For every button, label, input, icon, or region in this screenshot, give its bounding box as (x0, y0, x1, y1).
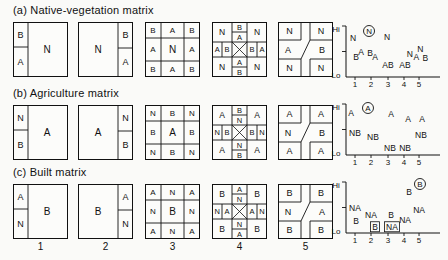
chart-label-letter: B (417, 180, 422, 189)
cell-label: B (44, 206, 51, 217)
cell-label: B (17, 30, 23, 40)
chart-point: B (372, 222, 378, 232)
column-number-1: 1 (13, 241, 68, 252)
squares-row-a: BANBANBBBBAAAANNNNNBAABABBANNNNAB (13, 22, 333, 77)
cell-label: B (318, 225, 324, 235)
chart-point: A (419, 114, 425, 124)
cell-label: N (43, 44, 50, 55)
cell-label: A (237, 33, 242, 42)
matrix-square-slot: ANB (78, 184, 133, 243)
cell-label: A (259, 45, 264, 54)
cell-label: A (254, 110, 260, 120)
chart-slot-a: HiLo12345NBABANABABNANBN (328, 20, 446, 88)
cell-label: A (319, 207, 325, 217)
chart-point: B (423, 53, 429, 63)
cell-label: A (285, 45, 291, 55)
chart-label-letter: N (366, 27, 372, 36)
matrix-square-slot: BBBBANNANAAN (212, 184, 267, 243)
cell-label: A (189, 188, 195, 197)
cell-label: A (224, 207, 229, 216)
matrix-square-c-5: BBBBNA (278, 184, 333, 239)
matrix-square-a-3: BBBBAAAAN (145, 22, 200, 77)
cell-label: B (17, 140, 23, 150)
cell-label: B (95, 206, 102, 217)
cell-label: B (170, 109, 175, 118)
column-numbers: 12345 (13, 241, 333, 255)
column-number-5: 5 (278, 241, 333, 252)
cell-label: B (237, 23, 242, 32)
chart-slot-b: HiLo12345ANBNBANBANBANBA (328, 98, 446, 166)
cell-label: B (319, 45, 325, 55)
cell-label: B (150, 26, 155, 35)
column-number-2: 2 (78, 241, 133, 252)
cell-label: A (286, 109, 292, 119)
cell-label: A (189, 227, 195, 236)
matrix-square-slot: BAN (78, 22, 133, 81)
chart-point: NB (367, 132, 379, 142)
cell-label: A (150, 45, 156, 54)
cell-label: A (95, 127, 102, 138)
cell-label: B (219, 189, 225, 199)
cell-label: N (259, 128, 264, 137)
cell-label: B (189, 26, 194, 35)
chart-slot-c: HiLo12345NABNABBNANABNAB (328, 176, 446, 244)
cell-label: A (170, 65, 176, 74)
axis-label-lo: Lo (332, 71, 341, 80)
cell-label: A (170, 26, 176, 35)
cell-label: A (237, 58, 242, 67)
matrix-square-a-4: NNNNBAABABBA (212, 22, 267, 77)
chart-point: NB (399, 143, 411, 153)
x-tick-label: 5 (417, 236, 422, 245)
chart-point: NB (384, 143, 396, 153)
cell-label: A (17, 57, 23, 67)
chart-point: AB (382, 60, 394, 70)
chart-point: NA (413, 205, 425, 215)
cell-label: A (150, 188, 156, 197)
cell-label: N (122, 219, 129, 229)
axis-label-hi: Hi (332, 25, 340, 34)
cell-label: N (189, 148, 195, 157)
cell-label: B (254, 224, 260, 234)
cell-label: B (286, 225, 292, 235)
cell-label: A (249, 207, 254, 216)
cell-label: N (285, 207, 292, 217)
matrix-square-slot: ANB (13, 184, 68, 243)
matrix-square-slot: BBBBAAAAN (145, 22, 200, 81)
matrix-square-a-2: BAN (78, 22, 133, 77)
scatter-chart-a: HiLo12345NBABANABABNANBN (328, 20, 446, 88)
cell-label: B (150, 128, 155, 137)
column-number-4: 4 (212, 241, 267, 252)
chart-point: NA (365, 210, 377, 220)
matrix-square-c-4: BBBBANNANAAN (212, 184, 267, 239)
cell-label: A (215, 45, 220, 54)
x-tick-label: 4 (402, 80, 407, 89)
cell-label: A (122, 57, 128, 67)
matrix-square-a-5: NNNNAB (278, 22, 333, 77)
chart-point: A (348, 108, 354, 118)
cell-label: N (94, 44, 101, 55)
matrix-square-b-2: NBA (78, 105, 133, 160)
axis-label-lo: Lo (332, 227, 341, 236)
cell-label: B (249, 128, 254, 137)
chart-label-letter: A (365, 104, 371, 113)
cell-label: A (150, 227, 156, 236)
chart-point: NA (349, 203, 361, 213)
cell-label: N (286, 26, 293, 36)
x-tick-label: 3 (386, 80, 391, 89)
cell-label: N (122, 113, 129, 123)
matrix-square-b-1: NBA (13, 105, 68, 160)
cell-label: A (318, 109, 324, 119)
cell-label: B (122, 140, 128, 150)
cell-label: N (285, 128, 292, 138)
cell-label: N (170, 227, 176, 236)
matrix-square-c-2: ANB (78, 184, 133, 239)
matrix-square-slot: NBA (78, 105, 133, 164)
column-number-3: 3 (145, 241, 200, 252)
cell-label: B (170, 148, 175, 157)
row-title-b: (b) Agriculture matrix (13, 87, 119, 99)
cell-label: N (214, 128, 219, 137)
x-tick-label: 1 (353, 80, 358, 89)
cell-label: N (169, 44, 176, 55)
cell-label: N (259, 207, 264, 216)
cell-label: N (150, 207, 156, 216)
